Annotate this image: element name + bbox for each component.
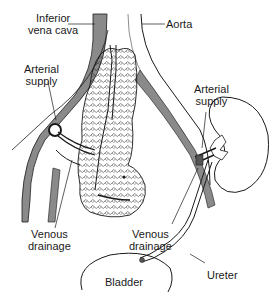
label-arterial-supply-left: Arterial supply [24,63,59,87]
label-arterial-supply-right: Arterial supply [194,83,229,107]
label-line: Arterial [194,83,229,95]
label-line: supply [194,95,229,107]
label-line: Inferior [28,12,78,24]
label-line: Venous [28,228,71,240]
label-inferior-vena-cava: Inferior vena cava [28,12,78,36]
label-venous-drainage-right: Venous drainage [129,228,172,252]
label-venous-drainage-left: Venous drainage [28,228,71,252]
anatomy-illustration [0,0,279,303]
label-line: drainage [129,240,172,252]
label-line: Arterial [24,63,59,75]
label-line: vena cava [28,24,78,36]
label-bladder: Bladder [105,276,143,288]
label-line: Venous [129,228,172,240]
label-ureter: Ureter [207,269,238,281]
label-line: supply [24,75,59,87]
label-line: drainage [28,240,71,252]
label-aorta: Aorta [166,18,192,30]
transplant-diagram: Inferior vena cava Aorta Arterial supply… [0,0,279,303]
